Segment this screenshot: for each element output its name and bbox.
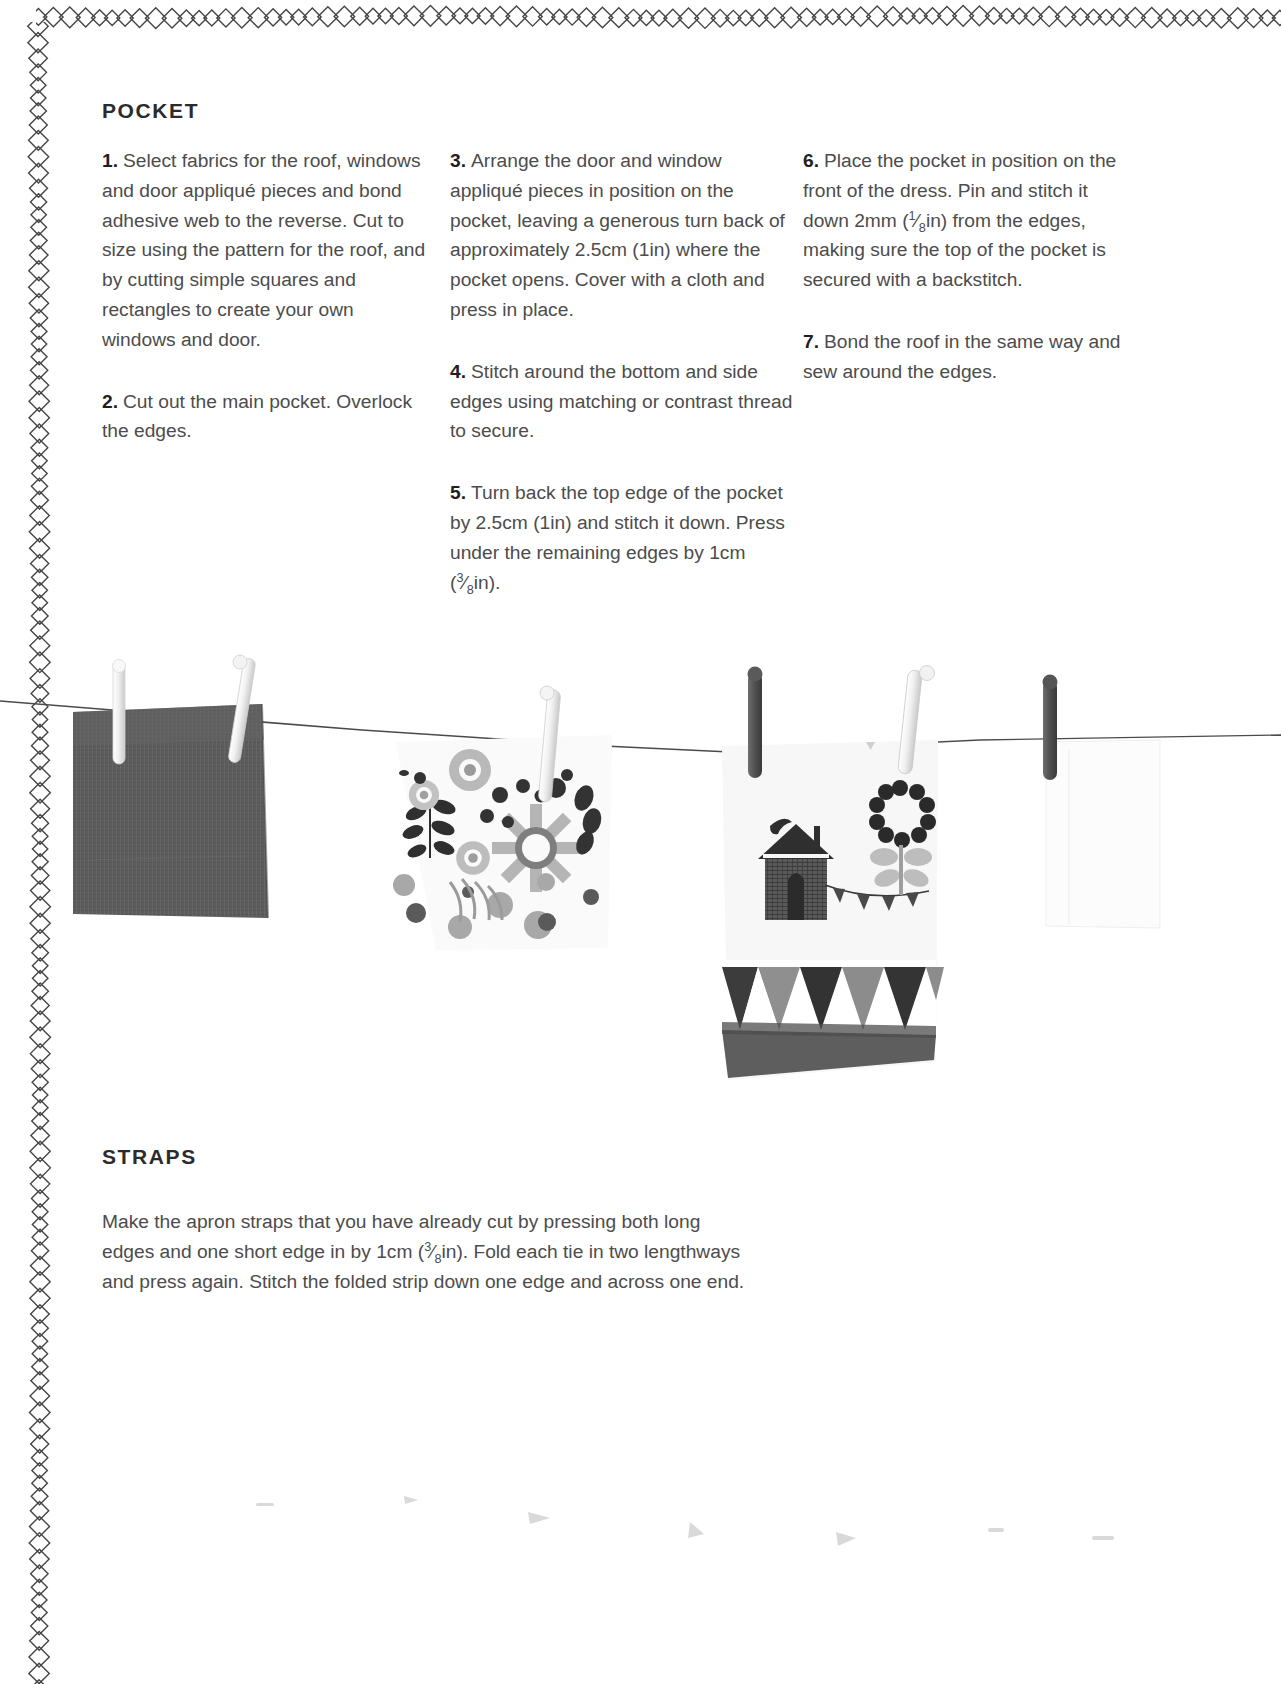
step-text: Arrange the door and window appliqué pie… — [450, 150, 785, 320]
step-number: 4. — [450, 361, 466, 382]
plain-white-fabric-swatch — [1046, 740, 1160, 928]
floral-print-fabric-swatch — [393, 735, 612, 950]
pocket-step-6: 6.Place the pocket in position on the fr… — [803, 146, 1133, 295]
page-content: POCKET 1.Select fabrics for the roof, wi… — [0, 0, 1281, 1684]
step-number: 1. — [102, 150, 118, 171]
instructions-column-2: 3.Arrange the door and window appliqué p… — [450, 146, 795, 597]
pocket-step-3: 3.Arrange the door and window appliqué p… — [450, 146, 795, 325]
clothesline-photograph — [0, 630, 1281, 1110]
pocket-section-heading: POCKET — [102, 99, 199, 123]
pocket-step-7: 7.Bond the roof in the same way and sew … — [803, 327, 1133, 387]
step-text: Stitch around the bottom and side edges … — [450, 361, 792, 442]
clothespin-6 — [1043, 675, 1058, 781]
fraction-one-eighth: 1⁄8 — [909, 210, 926, 231]
fraction-three-eighths: 3⁄8 — [456, 572, 473, 593]
instructions-column-3: 6.Place the pocket in position on the fr… — [803, 146, 1133, 387]
step-number: 2. — [102, 391, 118, 412]
pocket-step-1: 1.Select fabrics for the roof, windows a… — [102, 146, 432, 355]
fraction-denominator: 8 — [467, 582, 474, 596]
step-number: 3. — [450, 150, 466, 171]
clothespin-1 — [113, 660, 126, 765]
fraction-numerator: 1 — [909, 208, 916, 222]
step-text: Bond the roof in the same way and sew ar… — [803, 331, 1121, 382]
pocket-step-2: 2.Cut out the main pocket. Overlock the … — [102, 387, 432, 447]
bottom-photo-remnants — [0, 1460, 1281, 1650]
fraction-denominator: 8 — [919, 220, 926, 234]
clothespin-4 — [748, 667, 763, 779]
fraction-three-eighths: 3⁄8 — [424, 1241, 441, 1262]
house-print-fabric-swatch — [722, 740, 944, 1080]
step-number: 7. — [803, 331, 819, 352]
step-text: Select fabrics for the roof, windows and… — [102, 150, 425, 350]
instructions-column-1: 1.Select fabrics for the roof, windows a… — [102, 146, 432, 446]
step-number: 6. — [803, 150, 819, 171]
step-text: Cut out the main pocket. Overlock the ed… — [102, 391, 412, 442]
step-text-after: in). — [474, 572, 501, 593]
fraction-numerator: 3 — [456, 570, 463, 584]
straps-body-text: Make the apron straps that you have alre… — [102, 1207, 757, 1297]
pocket-step-5: 5.Turn back the top edge of the pocket b… — [450, 478, 795, 597]
triangle-border-motif — [722, 960, 944, 1078]
step-number: 5. — [450, 482, 466, 503]
straps-section-heading: STRAPS — [102, 1145, 197, 1169]
pocket-step-4: 4.Stitch around the bottom and side edge… — [450, 357, 795, 446]
fraction-numerator: 3 — [424, 1240, 431, 1254]
